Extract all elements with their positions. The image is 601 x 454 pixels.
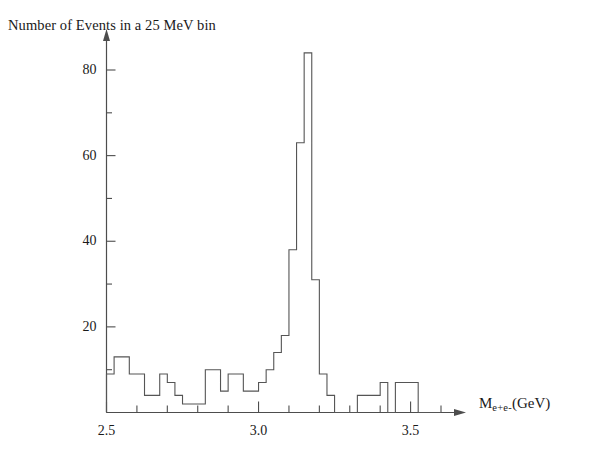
y-axis-arrowhead	[103, 29, 110, 41]
histogram-step-outline	[107, 53, 442, 413]
jpsi-mass-histogram-figure: Number of Events in a 25 MeV bin Me+e-(G…	[0, 0, 601, 454]
y-tick-label: 40	[63, 233, 97, 249]
y-tick-label: 60	[63, 148, 97, 164]
axes-group	[103, 29, 466, 416]
x-tick-label: 3.5	[402, 423, 420, 439]
x-ticks-group	[107, 402, 442, 413]
y-tick-label: 20	[63, 319, 97, 335]
x-tick-label: 2.5	[98, 423, 116, 439]
y-ticks-group	[107, 70, 116, 370]
x-axis-arrowhead	[454, 409, 466, 416]
x-tick-label: 3.0	[250, 423, 268, 439]
y-tick-label: 80	[63, 62, 97, 78]
